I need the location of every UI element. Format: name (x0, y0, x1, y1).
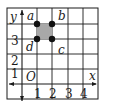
origin-label: O (26, 70, 36, 84)
x-tick-2: 2 (49, 87, 57, 101)
vertex-label-b: b (58, 9, 66, 23)
vertex-a (34, 21, 40, 27)
x-tick-3: 3 (65, 87, 73, 101)
y-tick-3: 3 (11, 34, 19, 48)
vertex-c (49, 36, 55, 42)
coordinate-grid-diagram: y a b c d 3 2 1 O x 1 2 3 4 (0, 0, 119, 110)
vertex-label-d: d (26, 40, 34, 54)
y-tick-1: 1 (11, 67, 19, 81)
x-tick-4: 4 (80, 87, 88, 101)
vertex-d (34, 36, 40, 42)
x-tick-1: 1 (34, 87, 42, 101)
vertex-b (49, 21, 55, 27)
x-axis-label: x (89, 69, 96, 83)
y-axis-arrow-up-icon (20, 10, 24, 15)
y-tick-2: 2 (11, 54, 19, 68)
x-axis-arrow-left-icon (9, 82, 14, 86)
y-axis-label: y (9, 10, 17, 24)
vertex-label-c: c (58, 43, 65, 57)
vertex-label-a: a (27, 9, 34, 23)
